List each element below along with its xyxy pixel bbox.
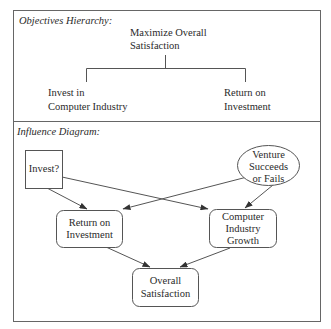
value-node-overall: Overall Satisfaction [133, 269, 199, 307]
overall-node-line2: Satisfaction [141, 288, 191, 299]
child-objective-1-line1: Invest in [48, 87, 85, 98]
objectives-hierarchy-title: Objectives Hierarchy: [19, 15, 112, 26]
influence-diagram-title: Influence Diagram: [16, 126, 100, 137]
decision-node-label: Invest? [29, 163, 60, 174]
root-objective-line1: Maximize Overall [130, 27, 207, 38]
chance-node-line1: Venture [252, 149, 285, 160]
arrow-roi-to-overall [106, 247, 150, 267]
objectives-hierarchy-section: Objectives Hierarchy: Maximize Overall S… [19, 15, 271, 112]
growth-node-line1: Computer [222, 211, 264, 222]
hierarchy-connector [87, 55, 246, 82]
consequence-node-growth: Computer Industry Growth [210, 210, 277, 248]
child-objective-2-line1: Return on [224, 87, 266, 98]
chance-node-line2: Succeeds [249, 161, 288, 172]
arrow-growth-to-overall [180, 248, 230, 267]
child-objective-1-line2: Computer Industry [48, 101, 128, 112]
growth-node-line2: Industry [226, 223, 262, 234]
root-objective-line2: Satisfaction [130, 40, 180, 51]
overall-node-line1: Overall [150, 275, 182, 286]
consequence-node-roi: Return on Investment [57, 211, 123, 248]
decision-node-invest: Invest? [26, 151, 63, 189]
chance-node-venture: Venture Succeeds or Fails [238, 146, 300, 186]
arrow-invest-to-roi [47, 188, 87, 209]
influence-diagram-section: Influence Diagram: Invest? Venture Succe… [16, 126, 300, 307]
growth-node-line3: Growth [227, 235, 260, 246]
diagram-canvas: Objectives Hierarchy: Maximize Overall S… [0, 0, 331, 329]
roi-node-line2: Investment [66, 229, 113, 240]
chance-node-line3: or Fails [253, 173, 285, 184]
arrow-venture-to-growth [245, 185, 273, 208]
roi-node-line1: Return on [69, 217, 111, 228]
child-objective-2-line2: Investment [224, 101, 271, 112]
